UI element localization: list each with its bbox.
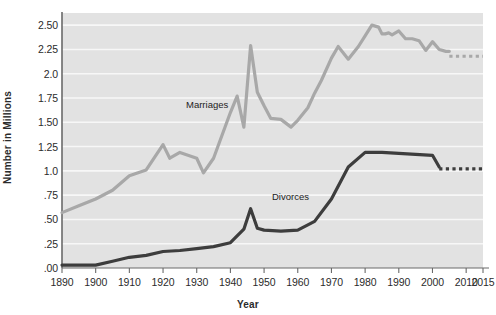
x-axis-tick-label: 1890 bbox=[51, 276, 74, 288]
x-axis-tick-labels: 1890190019101920193019401950196019701980… bbox=[0, 276, 496, 292]
series-label-marriages: Marriages bbox=[186, 99, 228, 110]
x-axis-tick-label: 1970 bbox=[320, 276, 343, 288]
x-axis-tick-label: 1930 bbox=[185, 276, 208, 288]
x-axis-tick-label: 1910 bbox=[118, 276, 141, 288]
x-axis-tick-label: 1900 bbox=[84, 276, 107, 288]
x-axis-tick-label: 1960 bbox=[286, 276, 309, 288]
x-axis-ticks-group bbox=[62, 268, 483, 273]
x-axis-tick-label: 2015 bbox=[472, 276, 495, 288]
x-axis-tick-label: 1990 bbox=[387, 276, 410, 288]
x-axis-title-container: Year bbox=[0, 294, 496, 312]
x-axis-tick-label: 1940 bbox=[219, 276, 242, 288]
marriages-divorces-line-chart: Number in Millions .00.25.50.751.01.251.… bbox=[0, 0, 496, 315]
x-axis-title: Year bbox=[237, 299, 259, 310]
series-label-divorces: Divorces bbox=[272, 191, 309, 202]
x-axis-tick-label: 2000 bbox=[421, 276, 444, 288]
x-axis-tick-label: 1920 bbox=[152, 276, 175, 288]
x-axis-tick-label: 1980 bbox=[354, 276, 377, 288]
x-axis-tick-label: 1950 bbox=[253, 276, 276, 288]
plot-canvas bbox=[0, 0, 496, 315]
